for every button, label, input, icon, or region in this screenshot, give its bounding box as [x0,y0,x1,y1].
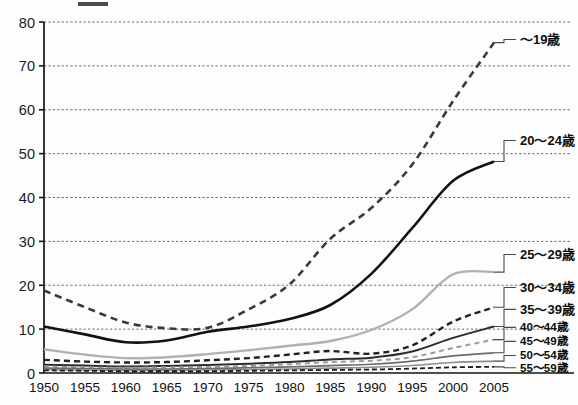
xtick-label: 1960 [111,380,141,395]
legend-leader-line [494,40,516,43]
ytick-label: 10 [19,322,35,338]
legend-label: 20～24歳 [520,133,575,148]
legend-leader-line [494,140,516,161]
xtick-label: 1975 [234,380,264,395]
legend-label: 55～59歳 [520,361,569,374]
ytick-labels-group: 01020304050607080 [19,15,35,382]
title-stub-mark [78,2,108,6]
legend-label: 50～54歳 [520,348,569,361]
legend-leader-line [494,309,516,326]
legend-group: ～19歳20～24歳25～29歳30～34歳35～39歳40～44歳45～49歳… [494,32,575,374]
xtick-label: 1990 [356,380,386,395]
legend-label: 45～49歳 [520,334,569,347]
series-line-20-24 [44,162,494,343]
ytick-label: 20 [19,278,35,294]
series-group [44,43,494,372]
series-line-30-34 [44,307,494,362]
line-chart: 01020304050607080 1950195519601965197019… [0,0,578,405]
legend-leader-line [494,367,516,368]
xtick-label: 1985 [315,380,345,395]
legend-leader-line [494,341,516,352]
legend-label: 40～44歳 [520,320,569,333]
ytick-label: 60 [19,102,35,118]
series-line-19 [44,43,494,330]
chart-page: 01020304050607080 1950195519601965197019… [0,0,578,405]
xtick-labels-group: 1950195519601965197019751980198519901995… [29,380,509,395]
xtick-label: 2000 [438,380,468,395]
ytick-label: 40 [19,190,35,206]
legend-label: 35～39歳 [520,302,575,317]
xtick-label: 1955 [70,380,100,395]
ytick-label: 80 [19,15,35,31]
series-line-35-39 [44,326,494,366]
ytick-label: 50 [19,146,35,162]
ytick-label: 30 [19,234,35,250]
legend-leader-line [494,355,516,361]
xtick-label: 1995 [397,380,427,395]
legend-leader-line [494,255,516,273]
ytick-label: 70 [19,58,35,74]
xtick-label: 2005 [479,380,509,395]
legend-label: ～19歳 [520,32,560,47]
legend-label: 25～29歳 [520,247,575,262]
series-line-25-29 [44,271,494,358]
xtick-label: 1980 [274,380,304,395]
xtick-label: 1950 [29,380,59,395]
legend-leader-line [494,287,516,307]
gridlines-group [44,22,570,329]
xtick-label: 1970 [193,380,223,395]
xtick-label: 1965 [152,380,182,395]
legend-label: 30～34歳 [520,280,575,295]
